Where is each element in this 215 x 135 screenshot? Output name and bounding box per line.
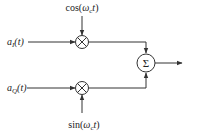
input-ai-label: aI(t)	[7, 36, 24, 49]
sigma-symbol: Σ	[143, 57, 149, 69]
top-multiplier-node	[76, 36, 89, 49]
bottom-multiplier-node	[76, 82, 89, 95]
summer-node: Σ	[137, 54, 155, 72]
cos-carrier-label: cos(ωct)	[66, 2, 99, 15]
input-aq-label: aQ(t)	[7, 82, 27, 95]
sin-carrier-label: sin(ωct)	[68, 119, 99, 132]
top-product-to-summer-line	[89, 42, 147, 53]
bottom-product-to-summer-line	[89, 73, 147, 88]
iq-modulator-diagram: cos(ωct) aI(t) aQ(t) sin(ωct) Σ	[0, 0, 215, 135]
